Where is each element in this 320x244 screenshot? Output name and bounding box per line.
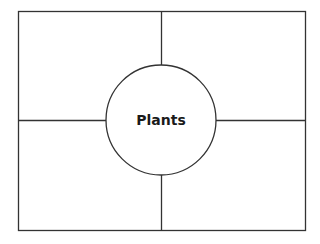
center-label: Plants bbox=[106, 108, 216, 132]
